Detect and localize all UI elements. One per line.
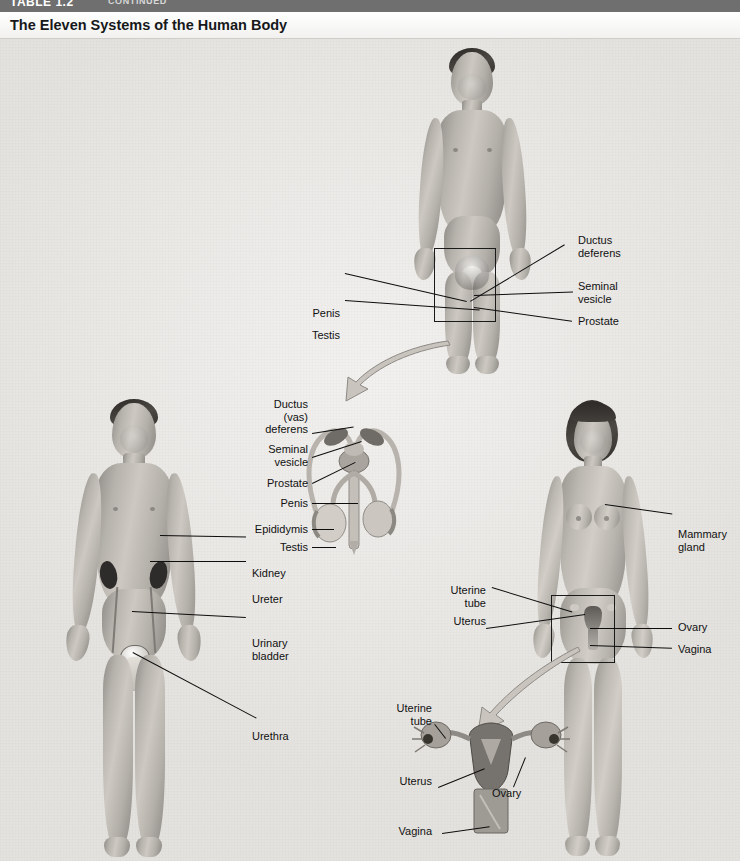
label-ovary-female: Ovary — [678, 621, 740, 634]
female-torso — [560, 466, 626, 602]
male-inset-drawing — [300, 391, 408, 559]
female-leg-right — [594, 658, 622, 844]
figure-page: TABLE 1.2 CONTINUED The Eleven Systems o… — [0, 0, 740, 861]
male-nipple-right — [487, 148, 492, 152]
female-reproductive-inset — [408, 699, 574, 849]
label-vagina-female: Vagina — [678, 643, 740, 656]
label-urinary-bladder: Urinary bladder — [252, 637, 342, 662]
male-reproductive-inset — [300, 391, 408, 559]
table-continued-label: CONTINUED — [108, 0, 167, 6]
male-nipple-left — [453, 148, 458, 152]
female-foot-right — [595, 836, 620, 856]
title-band: The Eleven Systems of the Human Body — [0, 12, 740, 39]
label-uterus-female: Uterus — [412, 615, 486, 628]
leader-ureter — [150, 561, 246, 562]
label-ovary-inset: Ovary — [492, 787, 554, 800]
label-ductus-vas-deferens-inset: Ductus (vas) deferens — [232, 398, 308, 436]
label-ductus-deferens-male: Ductus deferens — [578, 234, 668, 259]
label-seminal-vesicle-male: Seminal vesicle — [578, 280, 668, 305]
female-nipple-left — [576, 516, 581, 521]
urinary-male-leg-right — [135, 655, 165, 845]
urinary-male-foot-left — [104, 837, 130, 857]
male-foot-right — [475, 356, 499, 374]
label-kidney: Kidney — [252, 567, 342, 580]
table-bar: TABLE 1.2 CONTINUED — [0, 0, 740, 12]
female-inset-drawing — [408, 699, 574, 849]
leader-testis-inset — [312, 547, 336, 548]
urinary-male-foot-right — [136, 837, 162, 857]
urinary-figure — [48, 357, 218, 861]
label-uterus-inset: Uterus — [364, 775, 432, 788]
leader-ovary-female — [590, 628, 672, 629]
label-testis-inset: Testis — [232, 541, 308, 554]
label-penis-male: Penis — [268, 307, 340, 320]
label-epididymis-inset: Epididymis — [224, 523, 308, 536]
male-face-shading — [458, 74, 486, 100]
male-pelvis-highlight-box — [434, 248, 496, 322]
label-mammary-gland: Mammary gland — [678, 528, 740, 553]
leader-epididymis-inset — [312, 529, 334, 530]
label-uterine-tube-inset: Uterine tube — [364, 702, 432, 727]
male-reproductive-figure — [392, 44, 552, 374]
page-title: The Eleven Systems of the Human Body — [10, 17, 287, 33]
label-prostate-male: Prostate — [578, 315, 668, 328]
label-urethra: Urethra — [252, 730, 342, 743]
male-hand-left — [413, 247, 437, 281]
leader-penis-inset — [312, 503, 358, 504]
female-face-shading — [580, 428, 606, 454]
label-seminal-vesicle-inset: Seminal vesicle — [232, 443, 308, 468]
urinary-male-leg-left — [103, 655, 133, 845]
label-ureter: Ureter — [252, 593, 342, 606]
label-uterine-tube-female: Uterine tube — [412, 584, 486, 609]
label-vagina-inset: Vagina — [364, 825, 432, 838]
female-bangs — [570, 402, 616, 422]
urinary-male-hand-left — [64, 624, 91, 662]
female-nipple-right — [604, 516, 609, 521]
figure-canvas: Penis Testis Ductus deferens Seminal ves… — [0, 39, 740, 861]
male-torso — [438, 110, 506, 230]
label-penis-inset: Penis — [232, 497, 308, 510]
urinary-male-hand-right — [176, 624, 203, 662]
urinary-male-nipple-left — [113, 507, 118, 511]
table-number: TABLE 1.2 — [10, 0, 74, 9]
male-arm-right — [498, 117, 530, 258]
urinary-male-face-shading — [120, 425, 148, 453]
urinary-male-nipple-right — [150, 507, 155, 511]
label-prostate-inset: Prostate — [232, 477, 308, 490]
